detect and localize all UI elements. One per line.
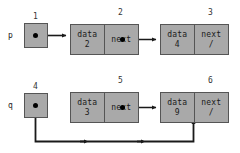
node2-data-value: 2: [85, 40, 90, 50]
node3-next-cell: next /: [195, 25, 229, 54]
node6-data-cell: data 9: [161, 93, 195, 122]
node5-next-dot: [120, 105, 125, 110]
node2-data-label: data: [77, 30, 97, 40]
node5-data-label: data: [77, 98, 97, 108]
node5-data-cell: data 3: [71, 93, 105, 122]
node3-data-value: 4: [175, 40, 180, 50]
node-box-6[interactable]: data 9 next /: [160, 92, 229, 123]
node3-next-label: next: [201, 30, 221, 40]
pointer-dot-q: [33, 103, 38, 108]
node6-next-null-slash: /: [209, 108, 214, 118]
index-label-6: 6: [208, 76, 213, 85]
index-label-5: 5: [118, 76, 123, 85]
index-label-3: 3: [208, 8, 213, 17]
node-box-3[interactable]: data 4 next /: [160, 24, 229, 55]
pointer-dot-p: [33, 33, 38, 38]
node-box-5[interactable]: data 3 next: [70, 92, 139, 123]
node3-data-cell: data 4: [161, 25, 195, 54]
node-box-2[interactable]: data 2 next: [70, 24, 139, 55]
index-label-1: 1: [33, 12, 38, 21]
node2-next-dot: [120, 37, 125, 42]
pointer-label-p: p: [8, 31, 13, 40]
index-label-2: 2: [118, 8, 123, 17]
node6-data-label: data: [167, 98, 187, 108]
node3-next-null-slash: /: [209, 40, 214, 50]
linked-list-diagram: p 1 2 data 2 next 3 data 4 next / q 4 5: [0, 0, 240, 153]
node2-data-cell: data 2: [71, 25, 105, 54]
node5-data-value: 3: [85, 108, 90, 118]
node6-data-value: 9: [175, 108, 180, 118]
node3-data-label: data: [167, 30, 187, 40]
node6-next-cell: next /: [195, 93, 229, 122]
pointer-label-q: q: [8, 101, 13, 110]
index-label-4: 4: [33, 82, 38, 91]
node6-next-label: next: [201, 98, 221, 108]
